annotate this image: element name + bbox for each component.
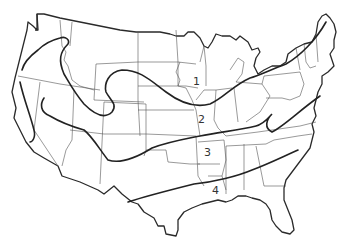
us-zone-map: 1 2 3 4 [0, 0, 354, 240]
zone-label-2: 2 [198, 114, 205, 125]
us-outline [12, 14, 336, 236]
zone-label-3: 3 [204, 147, 211, 158]
zone-boundaries [20, 22, 326, 202]
zone-boundary-2-3 [42, 96, 320, 161]
zone-boundary-1-2 [22, 22, 326, 116]
state-lines [18, 20, 318, 194]
zone-label-1: 1 [193, 76, 200, 87]
map-canvas [0, 0, 354, 240]
zone-label-4: 4 [212, 185, 219, 196]
